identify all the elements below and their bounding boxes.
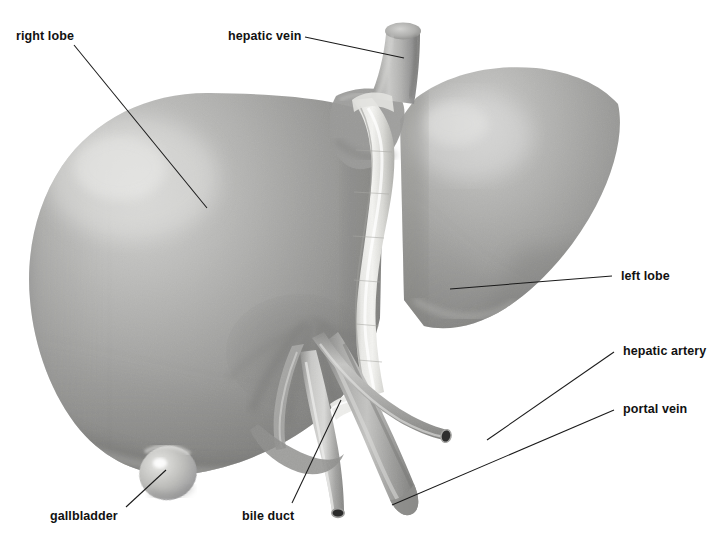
label-right-lobe: right lobe xyxy=(16,30,74,43)
label-left-lobe: left lobe xyxy=(621,270,670,283)
leader-hepatic-artery xyxy=(487,352,614,440)
hepatic-vein xyxy=(370,23,421,105)
liver-illustration xyxy=(0,0,716,545)
label-hepatic-vein: hepatic vein xyxy=(228,30,301,43)
liver-diagram: right lobe hepatic vein left lobe hepati… xyxy=(0,0,716,545)
label-bile-duct: bile duct xyxy=(242,510,294,523)
label-gallbladder: gallbladder xyxy=(50,510,118,523)
label-portal-vein: portal vein xyxy=(623,403,687,416)
label-hepatic-artery: hepatic artery xyxy=(623,345,706,358)
left-lobe-group xyxy=(396,67,626,360)
